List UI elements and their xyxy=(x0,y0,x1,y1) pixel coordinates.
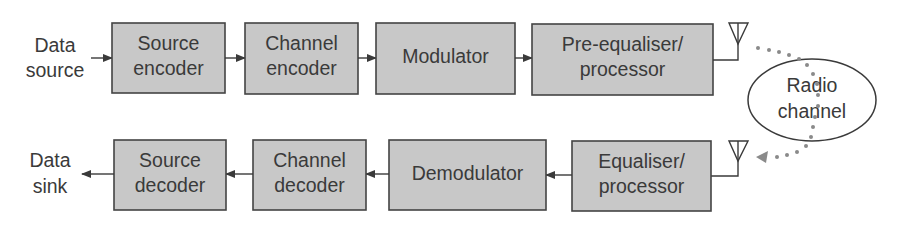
source-decoder-line2: decoder xyxy=(135,174,206,196)
channel-encoder-line2: encoder xyxy=(266,57,337,79)
data-sink-label: Data sink xyxy=(29,149,70,197)
equaliser-line2: processor xyxy=(599,175,685,197)
channel-decoder-block: Channel decoder xyxy=(253,140,366,210)
channel-encoder-block: Channel encoder xyxy=(245,23,358,94)
radio-channel-line2: channel xyxy=(778,100,846,122)
demodulator-block: Demodulator xyxy=(389,140,546,210)
wire-to-transmit-antenna xyxy=(713,44,738,60)
source-encoder-line2: encoder xyxy=(133,57,204,79)
transmit-antenna-icon xyxy=(729,23,748,44)
receive-antenna-icon xyxy=(729,141,748,161)
data-source-label: Data source xyxy=(26,34,85,81)
channel-encoder-line1: Channel xyxy=(265,32,338,54)
data-source-line2: source xyxy=(26,59,85,81)
dotted-arrowhead xyxy=(756,151,768,163)
equaliser-line1: Equaliser/ xyxy=(598,150,685,172)
radio-channel-line1: Radio xyxy=(787,74,838,96)
pre-equaliser-line2: processor xyxy=(580,58,666,80)
modulator-block: Modulator xyxy=(376,23,515,94)
pre-equaliser-processor-block: Pre-equaliser/ processor xyxy=(532,24,713,95)
equaliser-processor-block: Equaliser/ processor xyxy=(572,141,711,211)
transmitter-chain: Data source Source encoder Channel encod… xyxy=(26,23,748,95)
source-encoder-block: Source encoder xyxy=(112,23,225,93)
source-encoder-line1: Source xyxy=(138,32,200,54)
source-decoder-line1: Source xyxy=(139,149,201,171)
data-sink-line1: Data xyxy=(29,149,70,171)
data-sink-line2: sink xyxy=(33,175,68,197)
data-source-line1: Data xyxy=(34,34,75,56)
channel-decoder-line1: Channel xyxy=(273,149,346,171)
channel-decoder-line2: decoder xyxy=(274,174,345,196)
wire-from-receive-antenna xyxy=(711,161,738,176)
receiver-chain: Equaliser/ processor Demodulator Channel… xyxy=(29,140,748,211)
demodulator-label: Demodulator xyxy=(412,162,524,184)
pre-equaliser-line1: Pre-equaliser/ xyxy=(562,33,684,55)
modulator-label: Modulator xyxy=(402,45,489,67)
radio-channel: Radio channel xyxy=(748,46,876,163)
communication-system-block-diagram: Data source Source encoder Channel encod… xyxy=(0,0,903,226)
source-decoder-block: Source decoder xyxy=(114,140,226,210)
